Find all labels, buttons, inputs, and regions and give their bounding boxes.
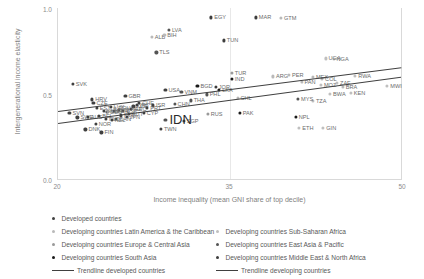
- data-point-label: FIN: [104, 129, 113, 135]
- x-tick-2: 35: [217, 183, 241, 190]
- data-point: [230, 71, 233, 74]
- data-point-label: TUN: [227, 37, 239, 43]
- legend-item[interactable]: Developing countries East Asia & Pacific: [216, 238, 366, 251]
- data-point-label: GTM: [284, 15, 296, 21]
- data-point-label: IDN: [169, 113, 191, 127]
- data-point: [150, 35, 153, 38]
- data-point-label: MYS: [301, 96, 313, 102]
- legend-item[interactable]: Trendline developed countries: [52, 264, 214, 277]
- legend-item[interactable]: Developed countries: [52, 212, 214, 225]
- legend-item[interactable]: Developing countries Sub-Saharan Africa: [216, 225, 366, 238]
- data-point: [159, 127, 162, 130]
- data-point-label: PER: [292, 72, 304, 78]
- data-point: [287, 73, 290, 76]
- y-tick-1: 1.0: [30, 6, 52, 13]
- data-point: [230, 77, 233, 80]
- data-point: [324, 57, 327, 60]
- x-tick-1: 20: [45, 183, 69, 190]
- data-point-label: IND: [235, 76, 245, 82]
- data-point-label: GIN: [326, 125, 336, 131]
- data-point-label: GBR: [128, 93, 140, 99]
- data-point-label: EGY: [214, 14, 226, 20]
- chart-legend: Developed countriesDeveloping countries …: [0, 212, 424, 279]
- data-point-label: USA: [168, 87, 180, 93]
- data-point: [76, 116, 79, 119]
- data-point: [222, 39, 225, 42]
- data-point: [271, 75, 274, 78]
- data-point: [196, 84, 199, 87]
- legend-item[interactable]: Developing countries Europe & Central As…: [52, 238, 214, 251]
- data-point: [298, 126, 301, 129]
- data-point: [254, 16, 257, 19]
- data-point: [210, 16, 213, 19]
- data-point-label: KEN: [354, 90, 366, 96]
- data-point: [322, 126, 325, 129]
- data-point-label: BGD: [200, 83, 212, 89]
- data-point: [319, 83, 322, 86]
- gridline-mid: [230, 8, 231, 179]
- data-point: [155, 51, 158, 54]
- x-axis-title: Income inequality (mean GNI share of top…: [57, 196, 402, 203]
- legend-item-label: Developing countries Latin America & the…: [61, 228, 214, 235]
- data-point: [329, 92, 332, 95]
- data-point: [279, 17, 282, 20]
- data-point: [68, 112, 71, 115]
- legend-dot-swatch: [216, 256, 219, 259]
- legend-dot-swatch: [216, 243, 219, 246]
- data-point-label: PAK: [243, 110, 254, 116]
- data-point-label: UGA: [329, 55, 341, 61]
- data-point-label: TZA: [316, 98, 327, 104]
- x-tick-3: 50: [390, 183, 414, 190]
- data-point-label: SVK: [76, 81, 87, 87]
- legend-item-label: Developing countries Middle East & North…: [225, 254, 365, 261]
- legend-item[interactable]: Developing countries Middle East & North…: [216, 251, 366, 264]
- legend-item-label: Developed countries: [61, 215, 121, 222]
- data-point-label: MWI: [390, 83, 402, 89]
- data-point: [71, 83, 74, 86]
- data-point: [206, 112, 209, 115]
- data-point: [386, 84, 389, 87]
- data-point: [297, 97, 300, 100]
- legend-item-label: Developing countries South Asia: [61, 254, 156, 261]
- legend-item-label: Trendline developed countries: [77, 267, 165, 274]
- data-point-label: ETH: [302, 125, 313, 131]
- data-point: [173, 102, 176, 105]
- legend-item-label: Developing countries Sub-Saharan Africa: [225, 228, 346, 235]
- legend-item-label: Developing countries Europe & Central As…: [61, 241, 189, 248]
- data-point: [180, 90, 183, 93]
- scatter-chart: Intergenerational income elasticity 1.0 …: [0, 0, 424, 279]
- data-point: [349, 91, 352, 94]
- legend-item[interactable]: Developing countries South Asia: [52, 251, 214, 264]
- data-point-label: BWA: [333, 91, 346, 97]
- data-point-label: ARG: [276, 73, 288, 79]
- y-tick-2: 0.5: [30, 92, 52, 99]
- data-point-label: DNK: [88, 126, 100, 132]
- legend-dot-swatch: [216, 230, 219, 233]
- legend-item-label: Developing countries East Asia & Pacific: [225, 241, 343, 248]
- data-point-label: NPL: [299, 114, 310, 120]
- data-point: [84, 128, 87, 131]
- legend-item[interactable]: Developing countries Latin America & the…: [52, 225, 214, 238]
- legend-item[interactable]: Trendline developing countries: [216, 264, 366, 277]
- data-point: [294, 115, 297, 118]
- data-point: [164, 88, 167, 91]
- data-point-label: NOR: [99, 121, 111, 127]
- data-point-label: LVA: [172, 27, 182, 33]
- y-axis-title: Intergenerational income elasticity: [14, 17, 21, 147]
- data-point: [238, 112, 241, 115]
- data-point: [164, 118, 167, 121]
- legend-column-2: Developing countries Sub-Saharan AfricaD…: [216, 225, 366, 277]
- legend-line-swatch: [52, 270, 74, 271]
- data-point: [94, 123, 97, 126]
- data-point-label: RUS: [211, 111, 223, 117]
- legend-dot-swatch: [52, 217, 55, 220]
- legend-dot-swatch: [52, 230, 55, 233]
- data-point-label: TLS: [159, 49, 169, 55]
- legend-column-1: Developed countriesDeveloping countries …: [52, 212, 214, 277]
- data-point: [124, 94, 127, 97]
- data-point: [163, 33, 166, 36]
- data-point: [92, 101, 95, 104]
- data-point: [100, 131, 103, 134]
- legend-item-label: Trendline developing countries: [241, 267, 331, 274]
- legend-line-swatch: [216, 270, 238, 271]
